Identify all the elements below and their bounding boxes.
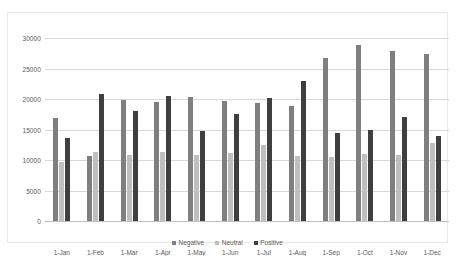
chart-legend: NegativeNeutralPositive <box>8 239 447 246</box>
x-axis-tick-label: 1-Jul <box>257 249 271 256</box>
bar-neutral <box>93 152 98 221</box>
bar-negative <box>390 51 395 221</box>
bar-positive <box>368 130 373 221</box>
bar-neutral <box>228 153 233 221</box>
bar-group <box>213 38 247 221</box>
legend-item-neutral[interactable]: Neutral <box>215 239 242 246</box>
y-axis-tick-label: 30000 <box>22 35 41 42</box>
bar-positive <box>335 133 340 221</box>
x-axis-tick-label: 1-Mar <box>121 249 138 256</box>
bar-positive <box>65 138 70 221</box>
bar-group <box>146 38 180 221</box>
bar-neutral <box>160 152 165 221</box>
bar-positive <box>402 117 407 221</box>
chart-container: 050001000015000200002500030000 1-Jan1-Fe… <box>0 0 456 256</box>
bar-positive <box>99 94 104 221</box>
bar-neutral <box>329 157 334 221</box>
bar-neutral <box>127 155 132 221</box>
bar-negative <box>154 102 159 221</box>
legend-label: Positive <box>260 239 283 246</box>
bar-negative <box>255 103 260 221</box>
y-axis-tick-label: 20000 <box>22 96 41 103</box>
bar-group <box>382 38 416 221</box>
bar-group <box>79 38 113 221</box>
bar-neutral <box>59 162 64 221</box>
y-axis-tick-label: 5000 <box>26 187 41 194</box>
bar-negative <box>323 58 328 221</box>
x-axis-tick-label: 1-Jan <box>54 249 70 256</box>
bar-neutral <box>194 155 199 221</box>
gridline <box>45 221 449 222</box>
y-axis-tick-label: 0 <box>37 218 41 225</box>
bar-negative <box>289 106 294 221</box>
bar-positive <box>436 136 441 221</box>
x-axis-tick-label: 1-Nov <box>390 249 407 256</box>
bar-positive <box>166 96 171 221</box>
bar-neutral <box>430 143 435 221</box>
bar-neutral <box>362 154 367 221</box>
y-axis-tick-label: 10000 <box>22 157 41 164</box>
bar-negative <box>87 156 92 221</box>
chart-frame: 050001000015000200002500030000 1-Jan1-Fe… <box>7 12 448 243</box>
bar-negative <box>188 97 193 221</box>
legend-swatch-icon <box>254 241 258 245</box>
legend-item-negative[interactable]: Negative <box>172 239 204 246</box>
bar-negative <box>53 118 58 221</box>
x-axis-tick-label: 1-Dec <box>423 249 440 256</box>
x-axis-tick-label: 1-Oct <box>357 249 373 256</box>
y-axis-tick-label: 15000 <box>22 126 41 133</box>
bar-group <box>112 38 146 221</box>
bar-group <box>180 38 214 221</box>
bar-group <box>281 38 315 221</box>
legend-label: Negative <box>179 239 205 246</box>
x-axis-tick-label: 1-Jun <box>222 249 238 256</box>
bar-negative <box>222 101 227 221</box>
legend-swatch-icon <box>172 241 176 245</box>
plot-area: 050001000015000200002500030000 1-Jan1-Fe… <box>45 38 449 221</box>
legend-swatch-icon <box>215 241 219 245</box>
bar-positive <box>301 81 306 221</box>
legend-label: Neutral <box>222 239 243 246</box>
bar-negative <box>424 54 429 221</box>
bar-group <box>314 38 348 221</box>
bar-neutral <box>396 155 401 221</box>
legend-item-positive[interactable]: Positive <box>254 239 283 246</box>
bar-group <box>45 38 79 221</box>
x-axis-tick-label: 1-Apr <box>155 249 171 256</box>
bar-neutral <box>261 145 266 221</box>
bar-positive <box>133 111 138 221</box>
bars-layer <box>45 38 449 221</box>
bar-positive <box>234 114 239 221</box>
bar-neutral <box>295 156 300 221</box>
bar-positive <box>200 131 205 221</box>
bar-positive <box>267 98 272 221</box>
bar-group <box>348 38 382 221</box>
x-axis-tick-label: 1-Sep <box>322 249 339 256</box>
y-axis-tick-label: 25000 <box>22 65 41 72</box>
x-axis-tick-label: 1-Feb <box>87 249 104 256</box>
bar-negative <box>121 100 126 221</box>
bar-negative <box>356 45 361 221</box>
x-axis-tick-label: 1-Aug <box>289 249 306 256</box>
bar-group <box>247 38 281 221</box>
bar-group <box>415 38 449 221</box>
x-axis-tick-label: 1-May <box>187 249 205 256</box>
